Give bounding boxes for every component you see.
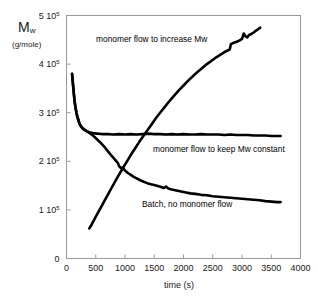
annotation-batch-no-flow: Batch, no monomer flow	[142, 199, 232, 209]
annotation-constant-mw: monomer flow to keep Mw constant	[153, 144, 285, 154]
x-tick-label: 2500	[203, 263, 223, 273]
x-tick-label: 0	[64, 263, 69, 273]
x-tick-label: 2000	[173, 263, 193, 273]
axis-ticks	[67, 16, 301, 259]
x-tick-label: 500	[88, 263, 103, 273]
x-axis-label: time (s)	[164, 280, 194, 290]
x-tick-label: 4000	[290, 263, 310, 273]
y-tick-label: 4 105	[0, 59, 60, 69]
y-axis-symbol-text: M	[18, 19, 30, 35]
annotation-increase-mw: monomer flow to increase Mw	[96, 34, 207, 44]
y-axis-units: (g/mole)	[12, 40, 41, 49]
y-tick-label: 1 105	[0, 205, 60, 215]
x-tick-label: 3500	[261, 263, 281, 273]
y-axis-subscript: w	[30, 26, 36, 35]
y-tick-label: 0	[0, 254, 60, 264]
x-tick-label: 1000	[115, 263, 135, 273]
y-tick-label: 3 105	[0, 108, 60, 118]
y-tick-label: 5 105	[0, 11, 60, 21]
plot-frame-rect	[67, 16, 301, 259]
plot-frame	[67, 16, 301, 259]
x-tick-label: 1500	[144, 263, 164, 273]
chart-figure: Mw (g/mole) time (s) 0500100015002000250…	[0, 0, 318, 300]
y-axis-label: Mw	[18, 19, 35, 35]
y-tick-label: 2 105	[0, 156, 60, 166]
x-tick-label: 3000	[232, 263, 252, 273]
series-line	[72, 74, 281, 136]
